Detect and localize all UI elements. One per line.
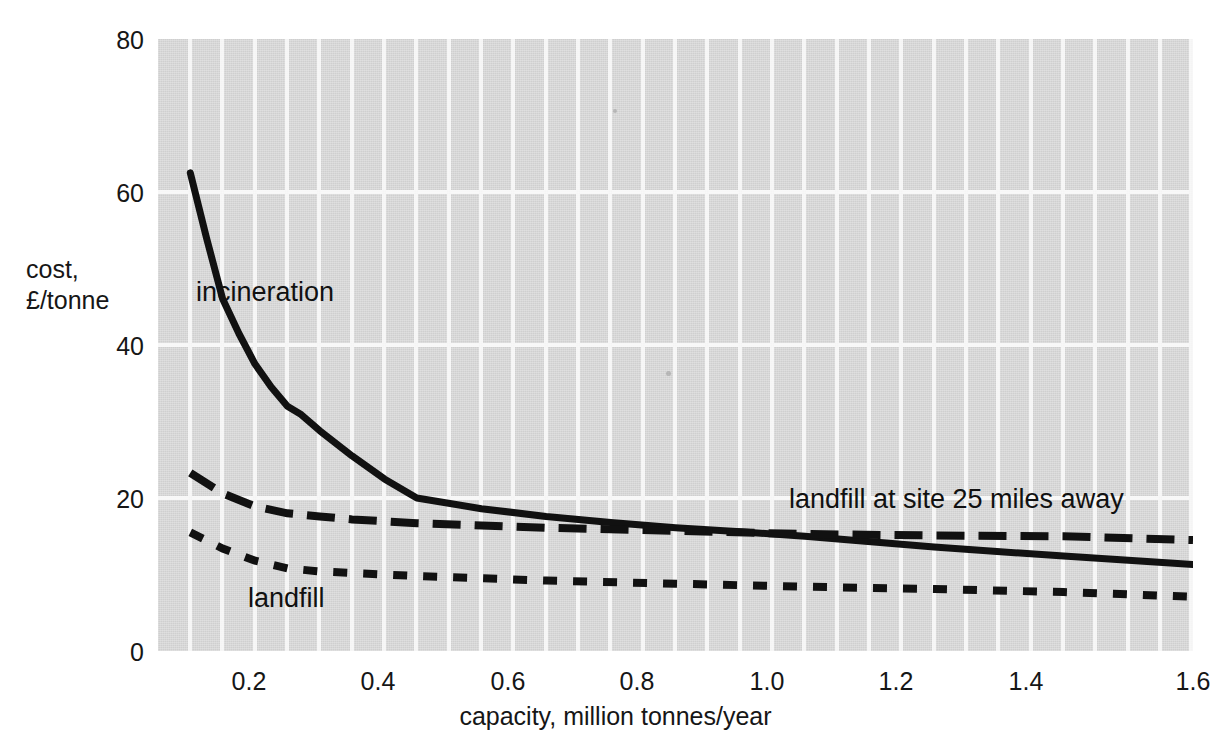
series-annotation-landfill-25-miles: landfill at site 25 miles away xyxy=(789,484,1124,515)
x-axis-tick-0.8: 0.8 xyxy=(592,667,682,696)
plot-area: incineration landfill at site 25 miles a… xyxy=(158,39,1193,651)
y-axis-tick-80: 80 xyxy=(70,26,144,55)
series-annotation-landfill: landfill xyxy=(248,583,325,614)
series-layer xyxy=(158,39,1193,651)
x-axis-tick-1.4: 1.4 xyxy=(981,667,1071,696)
x-axis-tick-1.2: 1.2 xyxy=(851,667,941,696)
x-axis-tick-0.6: 0.6 xyxy=(463,667,553,696)
y-axis-title: cost, £/tonne xyxy=(26,254,109,316)
x-axis-tick-1.0: 1.0 xyxy=(722,667,812,696)
y-axis-tick-60: 60 xyxy=(70,179,144,208)
chart-figure: 80 60 40 20 0 cost, £/tonne xyxy=(0,0,1231,755)
y-axis-tick-0: 0 xyxy=(70,638,144,667)
x-axis-tick-0.2: 0.2 xyxy=(204,667,294,696)
y-axis-tick-40: 40 xyxy=(70,332,144,361)
y-axis-title-line2: £/tonne xyxy=(26,285,109,316)
x-axis-tick-1.6: 1.6 xyxy=(1148,667,1231,696)
y-axis-title-line1: cost, xyxy=(26,254,109,285)
series-annotation-incineration: incineration xyxy=(196,277,334,308)
x-axis-title: capacity, million tonnes/year xyxy=(0,702,1231,731)
y-axis-tick-20: 20 xyxy=(70,485,144,514)
x-axis-tick-0.4: 0.4 xyxy=(333,667,423,696)
series-line-landfill xyxy=(190,532,1193,596)
